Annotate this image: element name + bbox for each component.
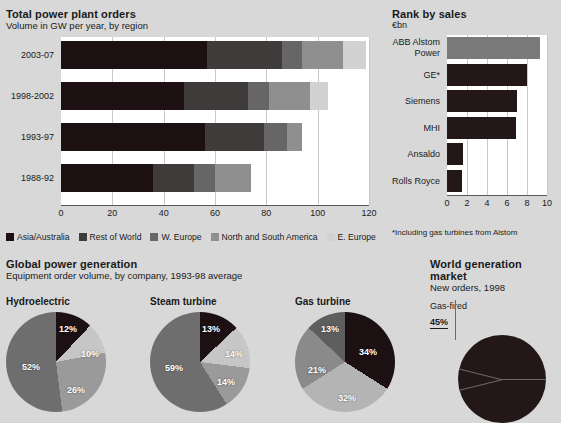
rank-x-tick-label: 6: [504, 198, 509, 208]
tpo-x-axis: [61, 205, 369, 206]
tpo-bar: 2003-07: [61, 41, 366, 69]
tpo-plot-area: 0204060801001202003-071998-20021993-9719…: [61, 37, 369, 205]
tpo-legend-label: W. Europe: [161, 232, 201, 242]
hydroelectric-pie-block: 12%10%26%52%: [6, 312, 106, 412]
tpo-bar: 1993-97: [61, 123, 302, 151]
tpo-bar-segment: [153, 164, 194, 192]
tpo-bar-segment: [194, 164, 215, 192]
world-generation-market-pie: [458, 335, 546, 423]
world-generation-market-pie-block: [458, 335, 546, 423]
tpo-bar: 1988-92: [61, 164, 251, 192]
tpo-legend-item: E. Europe: [327, 232, 376, 242]
tpo-legend-swatch-icon: [79, 233, 87, 241]
tpo-bar-segment: [248, 82, 269, 110]
hydroelectric-pie: 12%10%26%52%: [6, 312, 106, 412]
tpo-legend-label: Rest of World: [90, 232, 142, 242]
wgm-subtitle: New orders, 1998: [430, 282, 561, 293]
rank-gridline: [487, 35, 488, 195]
tpo-category-label: 1998-2002: [11, 82, 54, 110]
gas-turbine-slice-label: 21%: [308, 365, 326, 375]
rank-x-tick-label: 2: [464, 198, 469, 208]
tpo-x-tick-label: 40: [159, 208, 169, 218]
rank-x-tick-label: 8: [524, 198, 529, 208]
total-power-plant-orders-panel: Total power plant orders Volume in GW pe…: [6, 8, 386, 205]
rank-category-label: GE*: [423, 64, 440, 86]
tpo-legend-label: Asia/Australia: [17, 232, 70, 242]
tpo-bar-segment: [205, 123, 264, 151]
rank-by-sales-panel: Rank by sales €bn 0246810ABB AlstomPower…: [392, 8, 557, 195]
rank-gridline: [547, 35, 548, 195]
tpo-x-tick-label: 0: [58, 208, 63, 218]
tpo-x-tick-label: 20: [107, 208, 117, 218]
global-power-generation-panel: Global power generation Equipment order …: [6, 258, 426, 281]
rank-bar: Rolls Royce: [447, 170, 462, 192]
world-generation-market-leader-line: [455, 300, 456, 340]
tpo-x-tick-label: 80: [261, 208, 271, 218]
rank-plot-area: 0246810ABB AlstomPowerGE*SiemensMHIAnsal…: [447, 35, 547, 195]
steam-turbine-slice-label: 59%: [165, 363, 183, 373]
rank-x-tick-label: 0: [444, 198, 449, 208]
tpo-legend-item: W. Europe: [150, 232, 201, 242]
rank-x-tick-label: 4: [484, 198, 489, 208]
gpg-subtitle: Equipment order volume, by company, 1993…: [6, 270, 426, 281]
tpo-bar-segment: [61, 123, 205, 151]
rank-x-axis: [447, 195, 547, 196]
rank-bar: ABB AlstomPower: [447, 37, 540, 59]
tpo-bar-segment: [207, 41, 281, 69]
rank-category-label: Ansaldo: [407, 143, 440, 165]
world-generation-market-slice-divider: [459, 379, 502, 391]
tpo-bar-segment: [61, 164, 153, 192]
wgm-callout-label: Gas-fired: [430, 301, 561, 311]
tpo-legend-label: North and South America: [222, 232, 318, 242]
steam-turbine-pie-block: 13%14%14%59%: [150, 312, 250, 412]
gas-turbine-pie-block: 34%32%21%13%: [295, 312, 395, 412]
hydroelectric-slice-label: 10%: [81, 349, 99, 359]
tpo-legend-item: Rest of World: [79, 232, 142, 242]
steam-turbine-pie: 13%14%14%59%: [150, 312, 250, 412]
tpo-bar-segment: [310, 82, 328, 110]
gas-turbine-title: Gas turbine: [295, 296, 351, 307]
tpo-legend: Asia/AustraliaRest of WorldW. EuropeNort…: [6, 232, 406, 242]
rank-category-label: MHI: [424, 117, 441, 139]
tpo-legend-item: Asia/Australia: [6, 232, 70, 242]
rank-x-tick-label: 10: [542, 198, 552, 208]
rank-bar: Ansaldo: [447, 143, 463, 165]
wgm-title: World generation market: [430, 258, 561, 282]
rank-subtitle: €bn: [392, 20, 557, 30]
gas-turbine-slice-label: 32%: [338, 393, 356, 403]
tpo-category-label: 2003-07: [21, 41, 54, 69]
tpo-x-tick-label: 60: [210, 208, 220, 218]
gas-turbine-slice-label: 13%: [321, 324, 339, 334]
rank-category-label: ABB AlstomPower: [392, 37, 440, 59]
tpo-x-tick-label: 120: [361, 208, 376, 218]
gas-turbine-pie: 34%32%21%13%: [295, 312, 395, 412]
rank-gridline: [467, 35, 468, 195]
tpo-gridline: [369, 37, 370, 205]
tpo-category-label: 1988-92: [21, 164, 54, 192]
tpo-bar-segment: [184, 82, 248, 110]
tpo-legend-swatch-icon: [327, 233, 335, 241]
tpo-legend-swatch-icon: [6, 233, 14, 241]
steam-turbine-slice-label: 14%: [225, 349, 243, 359]
rank-gridline: [507, 35, 508, 195]
tpo-bar-segment: [282, 41, 303, 69]
rank-title: Rank by sales: [392, 8, 557, 20]
world-generation-market-panel: World generation market New orders, 1998…: [430, 258, 561, 329]
steam-turbine-title: Steam turbine: [150, 296, 217, 307]
world-generation-market-slice-divider: [502, 379, 546, 380]
rank-category-label: Rolls Royce: [392, 170, 440, 192]
hydroelectric-slice-label: 26%: [67, 385, 85, 395]
rank-gridline: [527, 35, 528, 195]
rank-plot-background: [447, 35, 547, 195]
tpo-bar-segment: [61, 41, 207, 69]
rank-bar: Siemens: [447, 90, 517, 112]
tpo-bar-segment: [302, 41, 343, 69]
tpo-bar-segment: [269, 82, 310, 110]
hydroelectric-slice-label: 12%: [59, 324, 77, 334]
rank-bar: GE*: [447, 64, 527, 86]
hydroelectric-title: Hydroelectric: [6, 296, 70, 307]
tpo-bar-segment: [264, 123, 287, 151]
tpo-bar-segment: [343, 41, 366, 69]
tpo-bar-segment: [215, 164, 251, 192]
tpo-title: Total power plant orders: [6, 8, 386, 20]
